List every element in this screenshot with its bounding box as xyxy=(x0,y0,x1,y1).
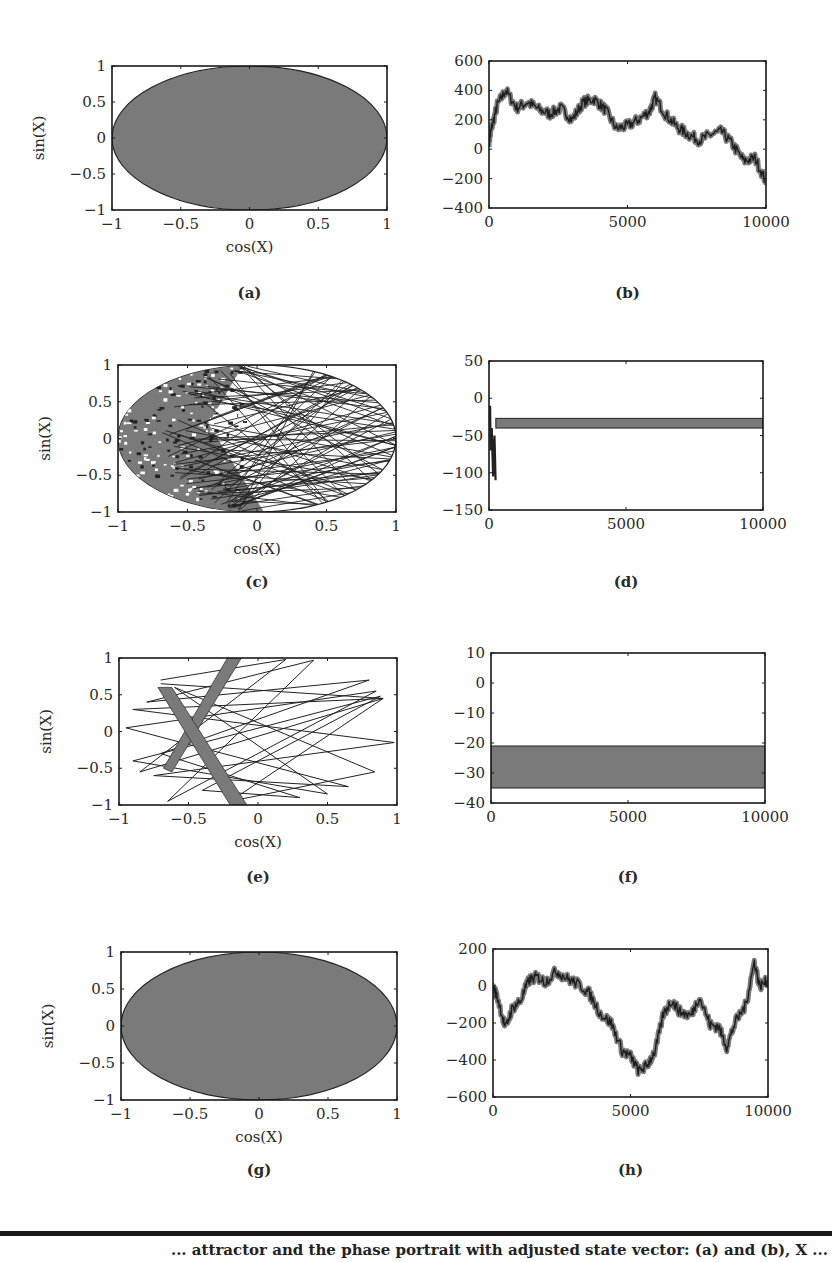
y-tick-label: 0.5 xyxy=(82,93,106,111)
y-tick-label: −150 xyxy=(442,501,483,519)
plot-area xyxy=(121,952,397,1100)
x-tick-label: 5000 xyxy=(611,1102,649,1120)
y-tick-label: −0.5 xyxy=(79,1054,115,1072)
y-tick-label: −0.5 xyxy=(76,466,112,484)
y-axis-label: sin(X) xyxy=(39,1004,57,1049)
panel-label: (g) xyxy=(247,1161,272,1179)
x-axis-label: cos(X) xyxy=(234,833,282,851)
panel-label: (b) xyxy=(615,284,640,302)
x-tick-label: 0 xyxy=(484,515,494,533)
x-tick-label: 0.5 xyxy=(306,215,330,233)
x-tick-label: 0 xyxy=(253,810,263,828)
y-tick-label: 0 xyxy=(103,723,113,741)
x-tick-label: 10000 xyxy=(742,213,790,231)
chart-panel-a: −1−0.500.5110.50−0.5−1cos(X)sin(X)(a) xyxy=(30,57,392,302)
plot-area xyxy=(489,89,766,183)
y-tick-label: 0 xyxy=(473,389,483,407)
x-axis-label: cos(X) xyxy=(226,238,274,256)
chart-panel-g: −1−0.500.5110.50−0.5−1cos(X)sin(X)(g) xyxy=(39,943,402,1179)
x-tick-label: 10000 xyxy=(741,808,789,826)
x-tick-label: 0 xyxy=(488,1102,498,1120)
x-tick-label: 5000 xyxy=(607,515,645,533)
x-tick-label: 10000 xyxy=(739,515,787,533)
chart-panel-e: −1−0.500.5110.50−0.5−1cos(X)sin(X)(e) xyxy=(37,649,402,886)
x-tick-label: 1 xyxy=(391,517,401,535)
panel-label: (h) xyxy=(618,1161,643,1179)
y-axis-label: sin(X) xyxy=(37,709,55,754)
y-tick-label: −50 xyxy=(451,427,483,445)
y-tick-label: −0.5 xyxy=(70,165,106,183)
y-tick-label: −100 xyxy=(442,464,483,482)
x-tick-label: −0.5 xyxy=(169,517,205,535)
y-tick-label: 1 xyxy=(96,57,106,75)
y-tick-label: −200 xyxy=(442,170,483,188)
y-tick-label: −200 xyxy=(446,1014,487,1032)
chart-panel-h: 05000100002000−200−400−600(h) xyxy=(446,940,792,1179)
x-tick-label: 0.5 xyxy=(315,517,339,535)
y-tick-label: −1 xyxy=(93,1091,115,1109)
y-tick-label: −400 xyxy=(446,1051,487,1069)
y-tick-label: 0 xyxy=(473,140,483,158)
y-tick-label: 600 xyxy=(454,52,483,70)
plot-area xyxy=(126,658,394,805)
y-tick-label: 0 xyxy=(105,1017,115,1035)
y-tick-label: 1 xyxy=(102,356,112,374)
panel-label: (c) xyxy=(245,573,268,591)
x-axis-label: cos(X) xyxy=(235,1128,283,1146)
panel-label: (e) xyxy=(246,868,270,886)
y-tick-label: −400 xyxy=(442,199,483,217)
plot-area xyxy=(491,746,765,788)
y-tick-label: −40 xyxy=(453,794,485,812)
chart-panel-d: 0500010000500−50−100−150(d) xyxy=(442,352,787,591)
x-tick-label: 1 xyxy=(392,810,402,828)
x-tick-label: 0 xyxy=(486,808,496,826)
chart-panel-f: 0500010000100−10−20−30−40(f) xyxy=(453,644,789,886)
x-tick-label: 0 xyxy=(245,215,255,233)
y-tick-label: 0.5 xyxy=(88,393,112,411)
y-tick-label: 0.5 xyxy=(91,980,115,998)
axes-frame xyxy=(489,361,763,510)
y-tick-label: −1 xyxy=(91,796,113,814)
chart-panel-c: −1−0.500.5110.50−0.5−1cos(X)sin(X)(c) xyxy=(36,356,401,591)
y-tick-label: −600 xyxy=(446,1088,487,1106)
x-tick-label: 0.5 xyxy=(316,1105,340,1123)
y-tick-label: 0 xyxy=(477,977,487,995)
y-tick-label: 0 xyxy=(475,674,485,692)
caption-rule xyxy=(0,1231,832,1236)
y-tick-label: −10 xyxy=(453,704,485,722)
y-tick-label: 1 xyxy=(105,943,115,961)
x-tick-label: 0 xyxy=(252,517,262,535)
y-tick-label: −20 xyxy=(453,734,485,752)
x-tick-label: 1 xyxy=(382,215,392,233)
y-tick-label: 0 xyxy=(102,430,112,448)
x-axis-label: cos(X) xyxy=(233,540,281,558)
x-tick-label: −0.5 xyxy=(163,215,199,233)
panel-label: (f) xyxy=(618,868,639,886)
plot-area xyxy=(493,960,768,1074)
y-tick-label: 400 xyxy=(454,81,483,99)
chart-panel-b: 05000100006004002000−200−400(b) xyxy=(442,52,790,302)
y-tick-label: 0 xyxy=(96,129,106,147)
y-tick-label: 0.5 xyxy=(89,686,113,704)
x-tick-label: 5000 xyxy=(609,808,647,826)
y-tick-label: 200 xyxy=(454,111,483,129)
x-tick-label: −0.5 xyxy=(170,810,206,828)
y-tick-label: −0.5 xyxy=(77,759,113,777)
y-tick-label: 1 xyxy=(103,649,113,667)
x-tick-label: 0.5 xyxy=(316,810,340,828)
y-tick-label: 200 xyxy=(458,940,487,958)
x-tick-label: 5000 xyxy=(608,213,646,231)
x-tick-label: −0.5 xyxy=(172,1105,208,1123)
x-tick-label: 0 xyxy=(254,1105,264,1123)
y-axis-label: sin(X) xyxy=(30,116,48,161)
y-tick-label: −1 xyxy=(84,201,106,219)
panel-label: (d) xyxy=(614,573,639,591)
y-tick-label: −1 xyxy=(90,503,112,521)
figure-caption: ... attractor and the phase portrait wit… xyxy=(0,1241,832,1262)
panel-label: (a) xyxy=(238,284,262,302)
y-axis-label: sin(X) xyxy=(36,416,54,461)
plot-area xyxy=(118,365,396,514)
x-tick-label: 10000 xyxy=(744,1102,792,1120)
x-tick-label: 1 xyxy=(392,1105,402,1123)
